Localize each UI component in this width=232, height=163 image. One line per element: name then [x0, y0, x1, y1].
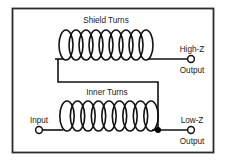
- transformer-coil-diagram: Shield Turns Inner Turns Input High-Z Ou…: [0, 0, 232, 163]
- inner-turns-label: Inner Turns: [86, 88, 127, 97]
- low-z-terminal[interactable]: [188, 127, 195, 134]
- shield-turns-label: Shield Turns: [83, 16, 129, 25]
- high-z-output-label: Output: [180, 66, 205, 75]
- low-z-label: Low-Z: [181, 116, 204, 125]
- high-z-terminal[interactable]: [188, 56, 195, 63]
- high-z-label: High-Z: [180, 45, 205, 54]
- junction-dot: [155, 127, 161, 133]
- low-z-output-label: Output: [180, 137, 205, 146]
- diagram-canvas: Shield Turns Inner Turns Input High-Z Ou…: [0, 0, 232, 163]
- input-label: Input: [30, 116, 49, 125]
- input-terminal[interactable]: [36, 127, 43, 134]
